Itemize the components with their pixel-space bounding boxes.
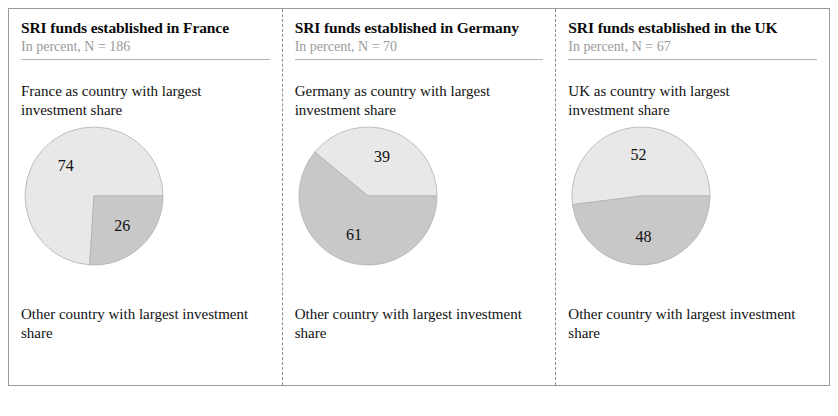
- panel-subtitle: In percent, N = 70: [295, 39, 544, 56]
- panel-rule: [568, 59, 817, 60]
- pie-slice-value: 74: [58, 157, 74, 174]
- figure-frame: SRI funds established in France In perce…: [8, 8, 830, 386]
- panel-subtitle: In percent, N = 67: [568, 39, 817, 56]
- pie-top-label: UK as country with largest investment sh…: [568, 82, 783, 120]
- pie-chart-container: 3961: [295, 122, 544, 274]
- pie-slice-value: 39: [374, 148, 390, 165]
- pie-slice: [572, 127, 710, 205]
- panel-uk: SRI funds established in the UK In perce…: [555, 9, 829, 385]
- panel-rule: [295, 59, 544, 60]
- pie-chart-france: 7426: [21, 122, 251, 274]
- pie-slice-value: 48: [636, 228, 652, 245]
- panel-rule: [21, 59, 270, 60]
- pie-bottom-label: Other country with largest investment sh…: [21, 305, 272, 343]
- pie-chart-uk: 5248: [568, 122, 798, 274]
- pie-chart-container: 5248: [568, 122, 817, 274]
- panel-germany: SRI funds established in Germany In perc…: [282, 9, 556, 385]
- pie-bottom-label: Other country with largest investment sh…: [295, 305, 546, 343]
- panel-title: SRI funds established in Germany: [295, 19, 544, 37]
- pie-chart-germany: 3961: [295, 122, 525, 274]
- pie-top-label: France as country with largest investmen…: [21, 82, 236, 120]
- panel-title: SRI funds established in France: [21, 19, 270, 37]
- panel-subtitle: In percent, N = 186: [21, 39, 270, 56]
- pie-slice-value: 61: [346, 226, 362, 243]
- pie-slice-value: 52: [631, 146, 647, 163]
- pie-top-label: Germany as country with largest investme…: [295, 82, 510, 120]
- pie-slice-value: 26: [114, 217, 130, 234]
- panel-title: SRI funds established in the UK: [568, 19, 817, 37]
- pie-chart-container: 7426: [21, 122, 270, 274]
- panel-france: SRI funds established in France In perce…: [9, 9, 282, 385]
- pie-bottom-label: Other country with largest investment sh…: [568, 305, 819, 343]
